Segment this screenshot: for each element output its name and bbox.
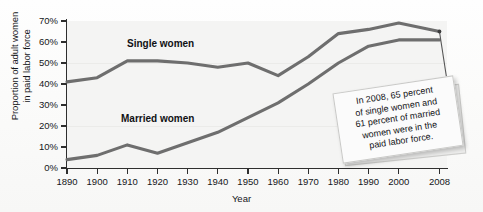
chart-figure: Proportion of adult women in paid labor … xyxy=(0,0,483,212)
callout-anchor-dot xyxy=(438,30,442,34)
line-single-women xyxy=(67,23,439,82)
series-label-single-women: Single women xyxy=(127,38,194,49)
series-label-married-women: Married women xyxy=(121,113,194,124)
